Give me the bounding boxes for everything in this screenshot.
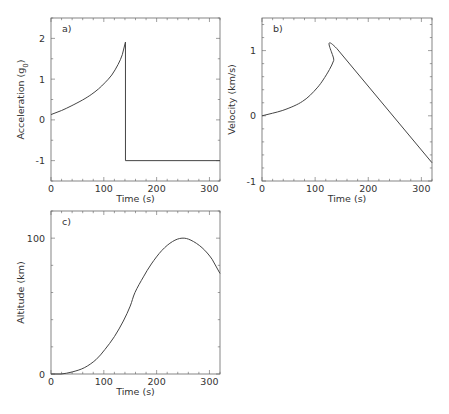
y-tick-label: -1 bbox=[36, 155, 45, 166]
x-axis-label: Time (s) bbox=[115, 386, 155, 397]
y-tick-label: 1 bbox=[39, 74, 45, 85]
panel-label: c) bbox=[62, 216, 71, 227]
x-axis-label: Time (s) bbox=[327, 193, 367, 204]
y-axis-label: Velocity (km/s) bbox=[226, 64, 237, 135]
y-tick-label: 2 bbox=[39, 33, 45, 44]
x-tick-label: 0 bbox=[259, 183, 265, 194]
x-tick-label: 300 bbox=[412, 183, 430, 194]
panel-label: b) bbox=[273, 23, 283, 34]
x-tick-label: 100 bbox=[95, 183, 113, 194]
velocity-curve bbox=[262, 43, 432, 163]
axes-frame bbox=[51, 18, 220, 181]
chart-panel-b: 0100200300-101Time (s)Velocity (km/s)b) bbox=[226, 18, 432, 204]
x-axis-label: Time (s) bbox=[115, 193, 155, 204]
chart-panel-a: 0100200300-1012Time (s)Acceleration (g0)… bbox=[15, 18, 220, 204]
y-axis-label: Acceleration (g0) bbox=[15, 60, 30, 140]
y-tick-label: 0 bbox=[39, 114, 45, 125]
axes-frame bbox=[262, 18, 432, 181]
y-tick-label: 100 bbox=[27, 233, 45, 244]
y-tick-label: -1 bbox=[247, 176, 256, 187]
y-tick-label: 0 bbox=[250, 110, 256, 121]
x-tick-label: 0 bbox=[48, 183, 54, 194]
panel-label: a) bbox=[62, 23, 72, 34]
y-axis-label: Altitude (km) bbox=[15, 261, 26, 323]
x-tick-label: 100 bbox=[306, 183, 324, 194]
acceleration-curve bbox=[51, 42, 220, 161]
altitude-curve bbox=[51, 238, 220, 374]
figure: 0100200300-1012Time (s)Acceleration (g0)… bbox=[0, 0, 449, 414]
x-tick-label: 300 bbox=[200, 376, 218, 387]
y-tick-label: 0 bbox=[39, 369, 45, 380]
x-tick-label: 300 bbox=[200, 183, 218, 194]
x-tick-label: 100 bbox=[95, 376, 113, 387]
x-tick-label: 0 bbox=[48, 376, 54, 387]
chart-panel-c: 01002003000100Time (s)Altitude (km)c) bbox=[15, 211, 220, 397]
y-tick-label: 1 bbox=[250, 45, 256, 56]
